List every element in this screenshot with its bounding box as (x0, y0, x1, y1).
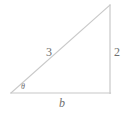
triangle-hypotenuse-line (11, 5, 110, 93)
hypotenuse-label: 3 (46, 46, 52, 58)
base-side-label: b (59, 97, 65, 109)
opposite-side-label: 2 (114, 46, 120, 58)
angle-theta-label: θ (21, 83, 25, 91)
triangle-figure: 3 2 b θ (0, 0, 127, 114)
